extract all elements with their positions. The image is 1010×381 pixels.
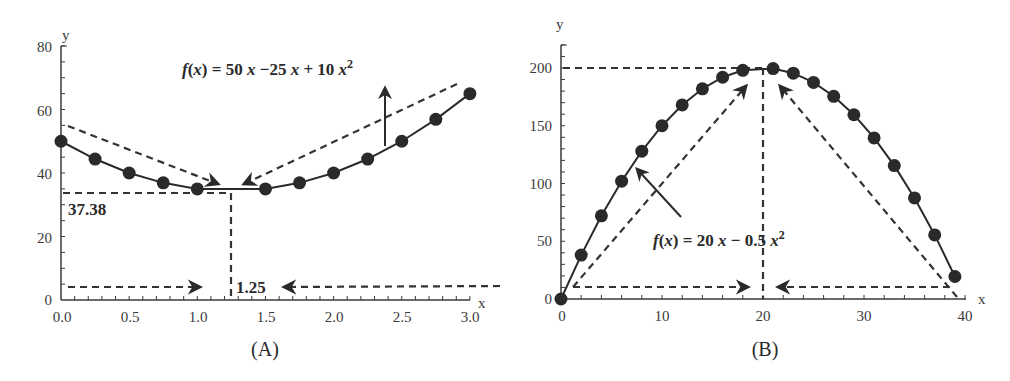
y-tick-label: 60 <box>37 103 52 119</box>
data-point <box>575 249 588 262</box>
min-x-label: 1.25 <box>236 278 266 297</box>
x-tick-label: 3.0 <box>461 309 480 325</box>
chart-caption: (B) <box>752 338 779 361</box>
right-arrow-guide <box>284 286 500 287</box>
formula-annotation: f(x) = 50 x −25 x + 10 x2 <box>182 57 353 79</box>
data-point <box>395 135 408 148</box>
data-point <box>429 113 442 126</box>
data-point <box>615 175 628 188</box>
y-tick-label: 50 <box>537 233 552 249</box>
figure: y x 80 60 40 20 0 0.0 0.5 1.0 1.5 2.0 2.… <box>0 0 1010 381</box>
chart-b: y x 200 150 100 50 0 0 10 20 30 40 f(x) … <box>530 16 987 361</box>
data-point <box>696 82 709 95</box>
data-point <box>157 176 170 189</box>
tick-marks <box>61 46 470 300</box>
x-tick-label: 1.5 <box>257 309 276 325</box>
data-point <box>361 153 374 166</box>
data-point <box>868 131 881 144</box>
data-point <box>635 145 648 158</box>
data-point <box>676 98 689 111</box>
y-tick-label: 0 <box>545 291 553 307</box>
y-tick-label: 80 <box>37 39 52 55</box>
data-point <box>767 62 780 75</box>
data-series <box>55 87 477 195</box>
data-point <box>259 182 272 195</box>
x-tick-label: 2.0 <box>325 309 344 325</box>
x-tick-label: 30 <box>857 308 872 324</box>
min-y-label: 37.38 <box>68 200 106 219</box>
y-tick-label: 40 <box>37 166 52 182</box>
data-point <box>89 153 102 166</box>
right-slope-guide <box>780 86 957 297</box>
data-point <box>191 182 204 195</box>
y-axis-label: y <box>556 16 564 32</box>
chart-a: y x 80 60 40 20 0 0.0 0.5 1.0 1.5 2.0 2.… <box>37 27 500 361</box>
formula-pointer-arrow <box>637 169 681 217</box>
data-point <box>327 167 340 180</box>
y-tick-label: 0 <box>45 292 53 308</box>
data-point <box>736 64 749 77</box>
data-point <box>463 87 476 100</box>
data-point <box>807 76 820 89</box>
data-point <box>888 159 901 172</box>
y-tick-label: 150 <box>530 118 553 134</box>
data-point <box>123 167 136 180</box>
formula-annotation: f(x) = 20 x − 0.5 x2 <box>653 228 785 250</box>
data-point <box>55 135 68 148</box>
y-axis-label: y <box>62 27 70 43</box>
x-axis-label: x <box>978 291 986 307</box>
data-point <box>595 209 608 222</box>
data-point <box>716 71 729 84</box>
y-tick-label: 20 <box>37 230 52 246</box>
x-tick-label: 0 <box>558 308 566 324</box>
x-tick-label: 0.0 <box>53 309 72 325</box>
x-tick-label: 1.0 <box>189 309 208 325</box>
data-series <box>555 62 962 305</box>
x-tick-label: 20 <box>756 308 771 324</box>
data-point <box>948 270 961 283</box>
data-point <box>928 228 941 241</box>
data-point <box>787 67 800 80</box>
x-tick-label: 40 <box>958 308 973 324</box>
right-slope-guide <box>244 84 457 184</box>
data-point <box>656 119 669 132</box>
y-tick-label: 200 <box>530 60 553 76</box>
data-point <box>847 108 860 121</box>
data-point <box>908 191 921 204</box>
x-tick-label: 2.5 <box>393 309 412 325</box>
data-point <box>827 90 840 103</box>
chart-caption: (A) <box>251 338 279 361</box>
x-tick-label: 10 <box>655 308 670 324</box>
left-slope-guide <box>573 86 746 287</box>
data-point <box>293 176 306 189</box>
data-point <box>555 293 568 306</box>
y-tick-label: 100 <box>530 176 553 192</box>
x-tick-label: 0.5 <box>121 309 140 325</box>
